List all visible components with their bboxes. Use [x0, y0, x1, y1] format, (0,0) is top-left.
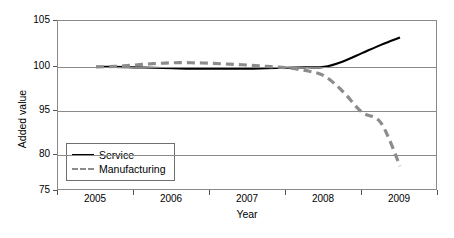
- y-tick-label: 75: [39, 185, 50, 195]
- x-axis-title: Year: [57, 208, 437, 220]
- x-tick-label: 2005: [57, 192, 133, 208]
- y-tick-label: 80: [39, 149, 50, 159]
- gridline: [58, 155, 436, 156]
- y-axis: 105100958075: [0, 0, 55, 238]
- x-tick-mark: [437, 190, 438, 195]
- y-tick-label: 100: [33, 61, 50, 71]
- x-tick-label: 2006: [133, 192, 209, 208]
- y-tick-label: 95: [39, 105, 50, 115]
- gridline: [58, 67, 436, 68]
- legend-label-manufacturing: Manufacturing: [99, 164, 166, 175]
- x-tick-label: 2009: [361, 192, 437, 208]
- chart-figure: Added value 105100958075 Service Manufac…: [0, 0, 454, 238]
- y-tick-label: 105: [33, 15, 50, 25]
- gridline: [58, 111, 436, 112]
- plot-area: Service Manufacturing: [57, 20, 437, 190]
- x-axis: 20052006200720082009: [57, 192, 437, 208]
- legend-swatch-dashed-icon: [72, 164, 94, 174]
- x-tick-label: 2007: [209, 192, 285, 208]
- x-tick-label: 2008: [285, 192, 361, 208]
- legend: Service Manufacturing: [66, 143, 175, 181]
- legend-item-manufacturing: Manufacturing: [72, 162, 166, 176]
